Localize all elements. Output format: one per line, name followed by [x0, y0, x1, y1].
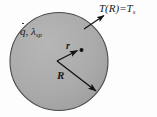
surface-temperature-subscript: s — [133, 8, 136, 15]
heat-conduction-sphere-figure: T(R)=Ts q, λsp r R — [0, 0, 157, 117]
surface-temperature-label: T(R)=Ts — [99, 3, 135, 15]
outer-radius-label: R — [57, 70, 64, 81]
surface-temperature-expression: T(R)=T — [99, 2, 133, 14]
figure-canvas — [0, 0, 157, 117]
source-properties-label: q, λsp — [20, 26, 42, 38]
field-point-dot — [80, 48, 84, 52]
heat-generation-symbol: q — [20, 26, 26, 37]
thermal-conductivity-subscript: sp — [36, 31, 42, 38]
radial-coordinate-label: r — [66, 41, 70, 51]
